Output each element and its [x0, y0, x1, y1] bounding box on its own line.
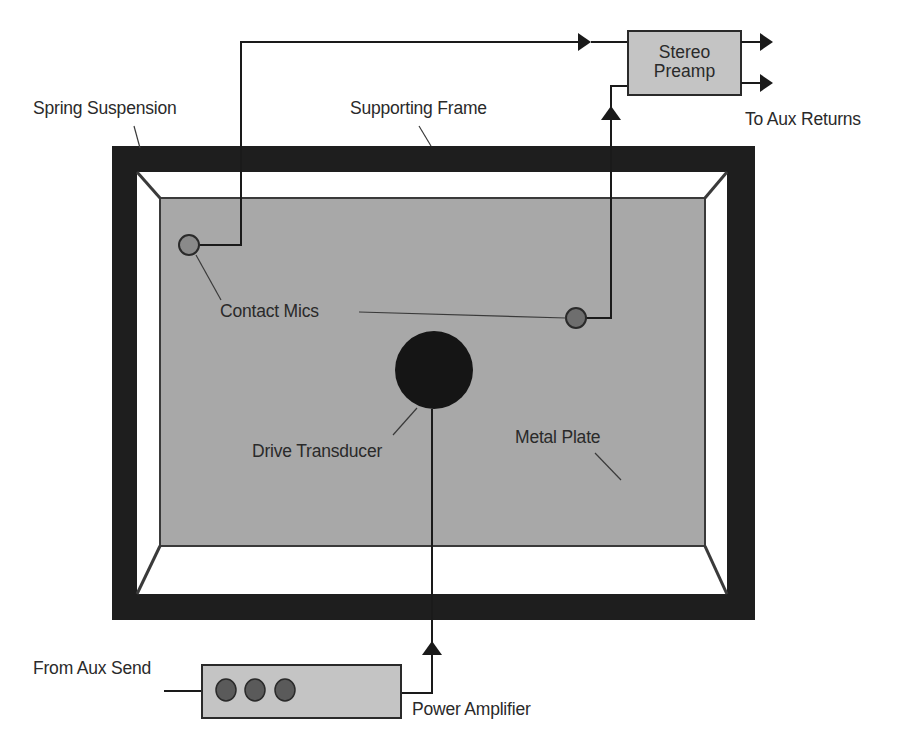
power-amplifier-label: Power Amplifier — [412, 701, 531, 719]
aux-send-label: From Aux Send — [33, 660, 151, 678]
arrow-right-icon — [760, 74, 773, 92]
arrow-up-icon — [422, 641, 442, 655]
arrow-right-icon — [760, 33, 773, 51]
metal-plate-label: Metal Plate — [515, 429, 600, 447]
amp-knob-icon — [275, 679, 295, 701]
aux-returns-label: To Aux Returns — [745, 111, 861, 129]
amp-knob-icon — [245, 679, 265, 701]
stereo-preamp-label: Stereo Preamp — [628, 43, 741, 81]
contact-mic-left — [179, 235, 199, 255]
stereo-preamp-line2: Preamp — [628, 62, 741, 81]
amp-knob-icon — [216, 679, 236, 701]
supporting-frame-label: Supporting Frame — [350, 100, 487, 118]
drive-transducer — [395, 331, 473, 409]
arrow-right-icon — [578, 33, 591, 51]
stereo-preamp-line1: Stereo — [628, 43, 741, 62]
drive-transducer-label: Drive Transducer — [252, 443, 382, 461]
spring-suspension-label: Spring Suspension — [33, 100, 177, 118]
contact-mics-label: Contact Mics — [220, 303, 319, 321]
contact-mic-right — [566, 308, 586, 328]
arrow-up-icon — [601, 106, 621, 120]
